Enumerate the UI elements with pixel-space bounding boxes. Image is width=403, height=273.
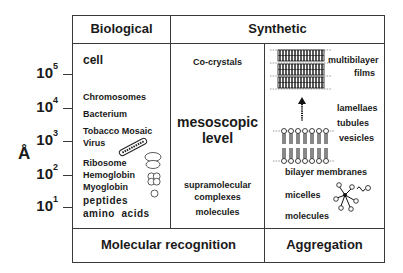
bio-chromosomes: Chromosomes — [83, 92, 146, 102]
agg-multibilayer: multibilayer — [328, 55, 379, 65]
axis-tick-label-1e2: 102 — [18, 165, 58, 182]
frame-left — [72, 15, 73, 263]
multibilayer-film-icon — [270, 47, 332, 95]
axis-tick-label-1e4: 104 — [18, 98, 58, 115]
bio-bacterium: Bacterium — [83, 109, 127, 119]
axis-tick-1e3 — [63, 141, 72, 142]
synth-inner-divider — [264, 43, 265, 263]
header-biological: Biological — [73, 21, 170, 36]
bio-myoglobin: Myoglobin — [83, 182, 128, 192]
frame-footer-divider — [72, 228, 385, 229]
footer-molecular-recognition: Molecular recognition — [73, 237, 264, 252]
axis-tick-1e5 — [63, 74, 72, 75]
axis-tick-1e4 — [63, 108, 72, 109]
agg-vesicles: vesicles — [339, 133, 374, 143]
arrow-up-icon — [297, 97, 307, 121]
hemoglobin-icon — [147, 172, 161, 186]
header-synthetic: Synthetic — [171, 21, 384, 36]
agg-tubules: tubules — [337, 118, 369, 128]
frame-top — [72, 15, 385, 16]
agg-bilayer-membranes: bilayer membranes — [285, 167, 367, 177]
bio-cell: cell — [83, 53, 103, 67]
footer-aggregation: Aggregation — [265, 237, 384, 252]
agg-films: films — [354, 68, 375, 78]
axis-tick-label-1e1: 101 — [18, 197, 58, 214]
agg-micelles: micelles — [285, 190, 321, 200]
bio-virus: Virus — [83, 138, 105, 148]
synth-mesoscopic: mesoscopic — [171, 114, 264, 130]
agg-molecules: molecules — [285, 211, 329, 221]
frame-header-divider — [72, 43, 385, 44]
myoglobin-icon — [150, 189, 159, 198]
frame-right — [384, 15, 385, 263]
axis-tick-1e1 — [63, 207, 72, 208]
micelle-icon — [333, 180, 373, 214]
agg-lamellaes: lamellaes — [337, 103, 378, 113]
synth-complexes: complexes — [171, 192, 264, 202]
axis-tick-1e2 — [63, 175, 72, 176]
synth-molecules-mid: molecules — [171, 207, 264, 217]
synth-co-crystals: Co-crystals — [171, 57, 264, 67]
bilayer-vesicle-icon — [273, 127, 335, 165]
synth-supramolecular: supramolecular — [171, 180, 264, 190]
bio-tobacco-mosaic: Tobacco Mosaic — [83, 126, 152, 136]
bio-ribosome: Ribosome — [83, 158, 127, 168]
frame-bottom — [72, 262, 385, 263]
bio-hemoglobin: Hemoglobin — [83, 170, 135, 180]
bio-peptides: peptides — [83, 195, 128, 206]
axis-tick-label-1e5: 105 — [18, 64, 58, 81]
axis-tick-label-1e3: 103 — [18, 131, 58, 148]
synth-level: level — [171, 130, 264, 146]
bio-amino-acids: amino acids — [83, 208, 150, 219]
ribosome-icon — [143, 152, 163, 170]
